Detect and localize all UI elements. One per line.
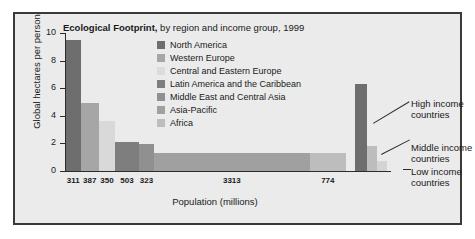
y-axis-tick-label: 4 — [34, 111, 56, 120]
leader-line-low — [403, 169, 411, 170]
income-group-baseline — [355, 171, 391, 172]
legend-swatch-icon — [157, 93, 165, 101]
income-group-bars — [355, 33, 395, 172]
annotation-high-income: High income countries — [411, 98, 464, 120]
annotation-low-income: Low income countries — [411, 166, 462, 188]
annotation-middle-income: Middle income countries — [411, 142, 472, 164]
annotation-middle-income-line2: countries — [411, 153, 472, 164]
y-axis-tick-label: 8 — [34, 56, 56, 65]
legend-label: Western Europe — [170, 53, 235, 63]
bar — [66, 40, 81, 171]
bar — [310, 153, 346, 171]
income-group-bar — [355, 84, 367, 172]
x-axis-tick-label: 503 — [120, 176, 133, 185]
legend-swatch-icon — [157, 106, 165, 114]
bar — [81, 103, 99, 171]
figure: Ecological Footprint, by region and inco… — [0, 0, 475, 239]
legend-swatch-icon — [157, 119, 165, 127]
legend: North AmericaWestern EuropeCentral and E… — [157, 38, 301, 129]
y-axis-tick-label: 2 — [34, 138, 56, 147]
legend-label: Middle East and Central Asia — [170, 92, 286, 102]
legend-swatch-icon — [157, 54, 165, 62]
income-group-bar — [367, 146, 377, 172]
annotation-low-income-line1: Low income — [411, 166, 462, 177]
x-axis-tick-label: 387 — [83, 176, 96, 185]
legend-label: Central and Eastern Europe — [170, 66, 282, 76]
legend-item: Asia-Pacific — [157, 103, 301, 116]
chart-title: Ecological Footprint, by region and inco… — [63, 22, 393, 33]
legend-label: North America — [170, 40, 227, 50]
x-axis-tick-label: 323 — [140, 176, 153, 185]
x-axis-tick-label: 774 — [321, 176, 334, 185]
bar — [115, 142, 139, 171]
x-axis-line — [65, 171, 390, 172]
chart-frame: Ecological Footprint, by region and inco… — [13, 12, 462, 225]
y-axis-tick-label: 0 — [34, 166, 56, 175]
bar — [139, 144, 154, 171]
legend-swatch-icon — [157, 41, 165, 49]
annotation-high-income-line1: High income — [411, 98, 464, 109]
chart-paper: Ecological Footprint, by region and inco… — [15, 14, 460, 223]
legend-label: Africa — [170, 118, 193, 128]
x-axis-tick-label: 3313 — [223, 176, 241, 185]
legend-swatch-icon — [157, 67, 165, 75]
y-axis-tick-label: 6 — [34, 83, 56, 92]
y-axis-tick — [60, 171, 66, 172]
x-axis-title: Population (millions) — [135, 196, 295, 207]
legend-item: North America — [157, 38, 301, 51]
x-axis-tick-label: 311 — [67, 176, 80, 185]
legend-label: Asia-Pacific — [170, 105, 217, 115]
legend-item: Africa — [157, 116, 301, 129]
legend-swatch-icon — [157, 80, 165, 88]
annotation-middle-income-line1: Middle income — [411, 142, 472, 153]
legend-item: Latin America and the Caribbean — [157, 77, 301, 90]
chart-title-bold: Ecological Footprint, — [63, 22, 157, 33]
legend-item: Central and Eastern Europe — [157, 64, 301, 77]
legend-item: Western Europe — [157, 51, 301, 64]
x-axis-tick-label: 350 — [100, 176, 113, 185]
bar — [99, 121, 115, 171]
chart-title-rest: by region and income group, 1999 — [157, 22, 304, 33]
bar — [154, 153, 310, 171]
legend-item: Middle East and Central Asia — [157, 90, 301, 103]
annotation-high-income-line2: countries — [411, 109, 464, 120]
annotation-low-income-line2: countries — [411, 177, 462, 188]
legend-label: Latin America and the Caribbean — [170, 79, 301, 89]
y-axis-tick-label: 10 — [34, 28, 56, 37]
